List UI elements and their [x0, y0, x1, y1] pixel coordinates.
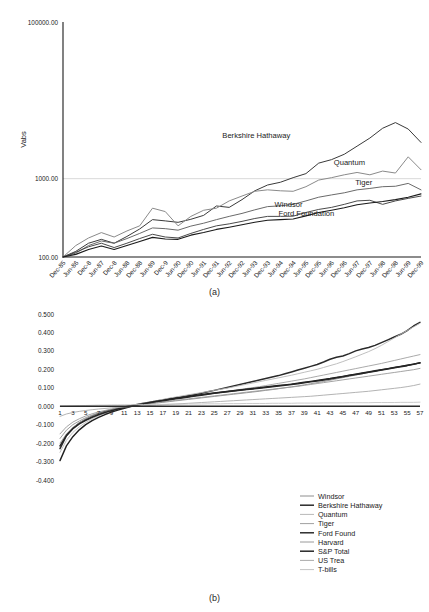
x-tick-label-b: 37 [288, 409, 295, 416]
series-line-s-p-total [60, 363, 420, 446]
y-axis-title-a: Vabs [19, 131, 28, 148]
legend-label-tiger: Tiger [318, 519, 335, 528]
series-line-ford-foundation [63, 194, 421, 257]
x-tick-label-b: 51 [378, 409, 385, 416]
x-tick-label-b: 31 [249, 409, 256, 416]
legend-label-harvard: Harvard [318, 538, 344, 547]
y-tick-label-a: 100000.00 [28, 19, 59, 26]
series-line-windsor [60, 363, 420, 438]
x-tick-label-b: 49 [365, 409, 372, 416]
x-tick-label-b: 29 [237, 409, 244, 416]
y-tick-label-a: 100.00 [38, 254, 58, 261]
series-label-windsor: Windsor [275, 200, 303, 209]
figure-container: 100000.001000.00100.00VabsBerkshire Hath… [0, 0, 429, 612]
x-tick-label-b: 41 [314, 409, 321, 416]
legend-label-t-bills: T-bills [318, 565, 337, 574]
legend-label-quantum: Quantum [318, 510, 348, 519]
x-tick-label-b: 5 [84, 409, 88, 416]
chart-panel-b: 0.5000.4000.3000.2000.1000.000-0.100-0.2… [0, 300, 429, 612]
series-line-quantum [60, 323, 420, 452]
x-tick-label-b: 55 [404, 409, 411, 416]
x-tick-label-b: 3 [71, 409, 75, 416]
x-tick-label-b: 21 [185, 409, 192, 416]
y-tick-label-b: 0.400 [38, 329, 54, 336]
y-tick-label-b: -0.400 [36, 477, 55, 484]
y-tick-label-b: 0.300 [38, 347, 54, 354]
series-line-tiger [60, 355, 420, 444]
series-label-quantum: Quantum [334, 158, 365, 167]
y-tick-label-b: 0.000 [38, 403, 54, 410]
x-tick-label-b: 25 [211, 409, 218, 416]
x-tick-label-b: 53 [391, 409, 398, 416]
x-tick-label-b: 1 [58, 409, 62, 416]
y-tick-label-b: -0.300 [36, 458, 55, 465]
series-line-windsor [63, 196, 421, 257]
x-tick-label-b: 27 [224, 409, 231, 416]
panel-b-svg: 0.5000.4000.3000.2000.1000.000-0.100-0.2… [0, 300, 429, 612]
legend-label-s-p-total: S&P Total [318, 547, 350, 556]
x-tick-label-b: 7 [97, 409, 101, 416]
x-tick-label-b: 35 [275, 409, 282, 416]
chart-panel-a: 100000.001000.00100.00VabsBerkshire Hath… [0, 0, 429, 308]
y-tick-label-b: -0.100 [36, 421, 55, 428]
legend-label-ford-found: Ford Found [318, 529, 355, 538]
x-tick-label-b: 23 [198, 409, 205, 416]
x-tick-label-b: 47 [352, 409, 359, 416]
series-line-harvard [60, 368, 420, 433]
x-tick-label-b: 15 [147, 409, 154, 416]
caption-panel-a: (a) [0, 287, 429, 297]
legend-label-us-trea: US Trea [318, 556, 344, 565]
y-tick-label-b: 0.100 [38, 384, 54, 391]
x-tick-label-b: 13 [134, 409, 141, 416]
caption-panel-b: (b) [0, 593, 429, 603]
x-tick-label-b: 9 [110, 409, 114, 416]
series-line-berkshire-hathaway [63, 123, 421, 257]
series-label-tiger: Tiger [355, 178, 372, 187]
panel-a-svg: 100000.001000.00100.00VabsBerkshire Hath… [0, 0, 429, 308]
series-label-ford-foundation: Ford Foundation [279, 209, 335, 218]
x-tick-label-b: 33 [262, 409, 269, 416]
legend-label-windsor: Windsor [318, 492, 345, 501]
x-tick-label-b: 11 [121, 409, 128, 416]
y-tick-label-b: -0.200 [36, 440, 55, 447]
y-tick-label-b: 0.500 [38, 311, 54, 318]
x-tick-label-b: 19 [172, 409, 179, 416]
x-tick-label-b: 39 [301, 409, 308, 416]
x-tick-label-b: 43 [327, 409, 334, 416]
y-tick-label-b: 0.200 [38, 366, 54, 373]
series-label-berkshire-hathaway: Berkshire Hathaway [222, 131, 290, 140]
x-tick-label-b: 57 [417, 409, 424, 416]
y-tick-label-a: 1000.00 [35, 175, 59, 182]
series-line-tiger [63, 183, 421, 257]
legend-label-berkshire-hathaway: Berkshire Hathaway [318, 501, 383, 510]
x-tick-label-b: 17 [159, 409, 166, 416]
x-tick-label-b: 45 [339, 409, 346, 416]
